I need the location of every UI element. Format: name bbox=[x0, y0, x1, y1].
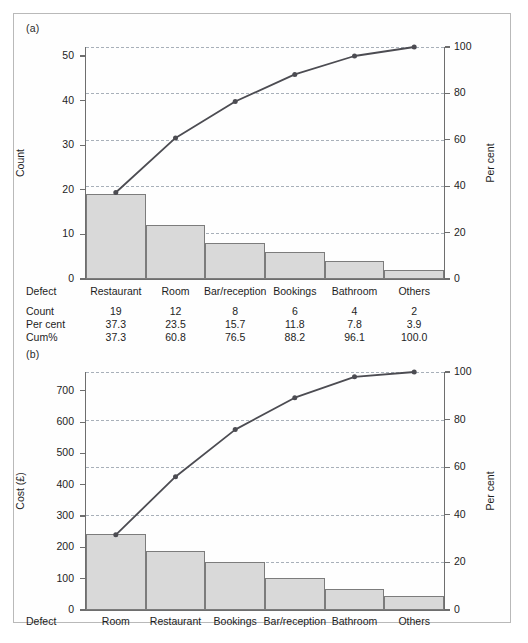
y2-axis-title: Per cent bbox=[484, 143, 496, 182]
category-label: Bookings bbox=[273, 285, 316, 297]
y-axis-tick-label: 600 bbox=[40, 415, 74, 427]
y-axis-tick bbox=[80, 578, 85, 579]
cumulative-point bbox=[233, 99, 238, 104]
cumulative-point bbox=[173, 135, 178, 140]
y-axis-tick bbox=[80, 100, 85, 101]
y-axis-tick-label: 200 bbox=[40, 540, 74, 552]
cumulative-line bbox=[86, 372, 444, 610]
y2-axis-tick-label: 0 bbox=[454, 272, 460, 284]
category-label: Bathroom bbox=[332, 615, 378, 627]
cumulative-point bbox=[352, 374, 357, 379]
category-label: Bar/reception bbox=[264, 615, 326, 627]
y2-axis-tick-label: 40 bbox=[454, 508, 466, 520]
percent-value: 37.3 bbox=[106, 318, 126, 330]
y2-axis-tick bbox=[445, 46, 450, 47]
y-axis-left bbox=[85, 47, 86, 279]
panel-b-letter: (b) bbox=[26, 348, 39, 360]
category-label: Bar/reception bbox=[204, 285, 266, 297]
y-axis-tick-label: 20 bbox=[40, 183, 74, 195]
y-axis-tick bbox=[80, 189, 85, 190]
y2-axis-tick bbox=[445, 278, 450, 279]
y-axis-tick-label: 30 bbox=[40, 138, 74, 150]
row-title-defect: Defect bbox=[26, 615, 56, 627]
y-axis-tick-label: 10 bbox=[40, 227, 74, 239]
count-value: 4 bbox=[352, 305, 358, 317]
cumulative-point bbox=[412, 370, 417, 375]
row-title-percent: Per cent bbox=[26, 318, 65, 330]
y-axis-left bbox=[85, 372, 86, 610]
y-axis-tick bbox=[80, 422, 85, 423]
y2-axis-tick-label: 100 bbox=[454, 40, 472, 52]
y-axis-tick-label: 400 bbox=[40, 478, 74, 490]
y2-axis-tick-label: 40 bbox=[454, 179, 466, 191]
y2-axis-tick bbox=[445, 514, 450, 515]
category-label: Room bbox=[102, 615, 130, 627]
y-axis-tick bbox=[80, 484, 85, 485]
y2-axis-tick bbox=[445, 139, 450, 140]
category-label: Bathroom bbox=[332, 285, 378, 297]
y-axis-title: Cost (£) bbox=[14, 472, 26, 509]
y2-axis-tick bbox=[445, 93, 450, 94]
category-label: Bookings bbox=[214, 615, 257, 627]
y2-axis-tick bbox=[445, 371, 450, 372]
y-axis-right bbox=[444, 47, 445, 279]
percent-value: 23.5 bbox=[165, 318, 185, 330]
row-title-cumpct: Cum% bbox=[26, 331, 58, 343]
count-value: 19 bbox=[110, 305, 122, 317]
count-value: 8 bbox=[232, 305, 238, 317]
percent-value: 7.8 bbox=[347, 318, 362, 330]
figure-frame: (a) 01020304050020406080100CountPer cent… bbox=[13, 13, 511, 623]
cumulative-point bbox=[113, 190, 118, 195]
y-axis-tick bbox=[80, 515, 85, 516]
y-axis-tick-label: 50 bbox=[40, 49, 74, 61]
x-axis bbox=[85, 610, 445, 611]
category-label: Others bbox=[398, 285, 430, 297]
y-axis-tick bbox=[80, 390, 85, 391]
y-axis-tick-label: 700 bbox=[40, 384, 74, 396]
cum-percent-value: 76.5 bbox=[225, 331, 245, 343]
y2-axis-tick-label: 0 bbox=[454, 603, 460, 615]
y2-axis-tick-label: 60 bbox=[454, 133, 466, 145]
y-axis-title: Count bbox=[14, 149, 26, 177]
y2-axis-tick bbox=[445, 232, 450, 233]
count-value: 12 bbox=[170, 305, 182, 317]
y-axis-tick bbox=[80, 453, 85, 454]
cumulative-line bbox=[86, 47, 444, 279]
y-axis-tick-label: 0 bbox=[40, 603, 74, 615]
cumulative-point bbox=[113, 532, 118, 537]
cum-percent-value: 96.1 bbox=[344, 331, 364, 343]
y-axis-tick-label: 500 bbox=[40, 446, 74, 458]
percent-value: 3.9 bbox=[407, 318, 422, 330]
y-axis-tick bbox=[80, 609, 85, 610]
cumulative-point bbox=[173, 474, 178, 479]
y2-axis-tick bbox=[445, 467, 450, 468]
cumulative-point bbox=[412, 45, 417, 50]
plot-area bbox=[86, 372, 444, 610]
count-value: 6 bbox=[292, 305, 298, 317]
category-label: Others bbox=[398, 615, 430, 627]
cumulative-point bbox=[292, 72, 297, 77]
plot-area bbox=[86, 47, 444, 279]
y-axis-tick-label: 40 bbox=[40, 94, 74, 106]
count-value: 2 bbox=[411, 305, 417, 317]
y2-axis-tick-label: 80 bbox=[454, 86, 466, 98]
cum-percent-value: 60.8 bbox=[165, 331, 185, 343]
percent-value: 11.8 bbox=[285, 318, 305, 330]
row-title-defect: Defect bbox=[26, 285, 56, 297]
y-axis-right bbox=[444, 372, 445, 610]
y2-axis-tick-label: 80 bbox=[454, 413, 466, 425]
cum-percent-value: 37.3 bbox=[106, 331, 126, 343]
cum-percent-value: 100.0 bbox=[401, 331, 427, 343]
y-axis-tick bbox=[80, 547, 85, 548]
panel-a-letter: (a) bbox=[26, 22, 39, 34]
y-axis-tick bbox=[80, 278, 85, 279]
y-axis-tick bbox=[80, 234, 85, 235]
y-axis-tick-label: 100 bbox=[40, 572, 74, 584]
y2-axis-tick-label: 20 bbox=[454, 226, 466, 238]
y2-axis-tick bbox=[445, 609, 450, 610]
y2-axis-tick bbox=[445, 186, 450, 187]
y2-axis-tick-label: 20 bbox=[454, 555, 466, 567]
y2-axis-tick bbox=[445, 419, 450, 420]
cumulative-point bbox=[233, 427, 238, 432]
y2-axis-tick-label: 100 bbox=[454, 365, 472, 377]
